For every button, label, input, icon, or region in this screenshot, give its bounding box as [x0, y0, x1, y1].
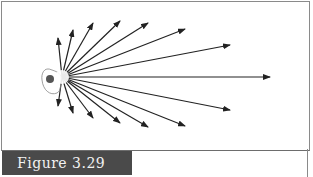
ray-arrow	[62, 30, 73, 77]
eye-source-icon	[42, 69, 69, 94]
ray-arrow	[62, 77, 148, 127]
ray-arrows	[58, 21, 270, 127]
ray-diagram	[0, 0, 313, 150]
ray-arrow	[62, 23, 93, 77]
figure-caption: Figure 3.29	[17, 155, 105, 171]
frame-right-rule	[307, 149, 308, 177]
figure-caption-bar: Figure 3.29	[2, 151, 132, 175]
ray-arrow	[62, 29, 185, 77]
ray-arrow	[62, 21, 120, 77]
ray-arrow	[62, 77, 230, 110]
